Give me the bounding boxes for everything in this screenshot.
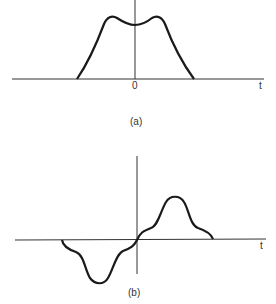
b-horizontal-axis bbox=[15, 239, 266, 240]
a-caption: (a) bbox=[130, 117, 142, 127]
b-caption: (b) bbox=[128, 288, 140, 298]
a-origin-label: 0 bbox=[132, 81, 138, 91]
a-t-axis-label: t bbox=[259, 81, 262, 91]
b-t-axis-label: t bbox=[260, 241, 263, 251]
figure-a bbox=[12, 0, 264, 79]
figure-b bbox=[15, 156, 266, 283]
figure-canvas bbox=[0, 0, 276, 304]
